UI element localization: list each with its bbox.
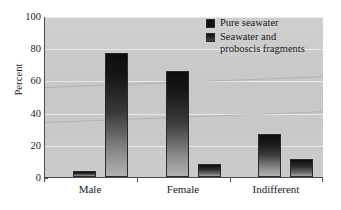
chart-legend: Pure seawater Seawater and proboscis fra… <box>206 17 336 57</box>
x-tick-label-indifferent: Indifferent <box>253 183 300 195</box>
legend-item-pure-seawater: Pure seawater <box>206 17 336 29</box>
bar-indifferent-seawater-proboscis <box>290 159 313 177</box>
legend-swatch-icon-pure-seawater <box>206 19 215 28</box>
bar-male-pure-seawater <box>73 171 96 177</box>
x-tick-label-male: Male <box>79 183 102 195</box>
y-axis-ticks: 100 80 60 40 20 0 <box>0 0 44 210</box>
x-tick-mark-1 <box>137 178 138 182</box>
bar-female-seawater-proboscis <box>198 164 221 177</box>
x-tick-label-female: Female <box>167 183 199 195</box>
bar-male-seawater-proboscis <box>105 53 128 177</box>
y-tick-label-20: 20 <box>31 141 42 152</box>
y-tick-label-0: 0 <box>36 173 41 184</box>
x-axis-ticks: Male Female Indifferent <box>44 178 323 208</box>
x-tick-mark-2 <box>230 178 231 182</box>
y-tick-label-100: 100 <box>25 12 41 23</box>
y-tick-label-80: 80 <box>31 44 42 55</box>
y-tick-label-60: 60 <box>31 76 42 87</box>
legend-item-seawater-proboscis: Seawater and proboscis fragments <box>206 31 336 55</box>
y-tick-label-40: 40 <box>31 108 42 119</box>
bar-indifferent-pure-seawater <box>258 134 281 178</box>
x-tick-mark-3 <box>322 178 323 182</box>
x-tick-mark-0 <box>44 178 45 182</box>
legend-label-pure-seawater: Pure seawater <box>220 17 279 29</box>
legend-swatch-icon-seawater-proboscis <box>206 33 215 42</box>
legend-label-seawater-proboscis: Seawater and proboscis fragments <box>220 31 305 55</box>
bar-chart-figure: Percent 100 80 60 40 20 0 <box>0 0 341 210</box>
bar-female-pure-seawater <box>166 71 189 177</box>
